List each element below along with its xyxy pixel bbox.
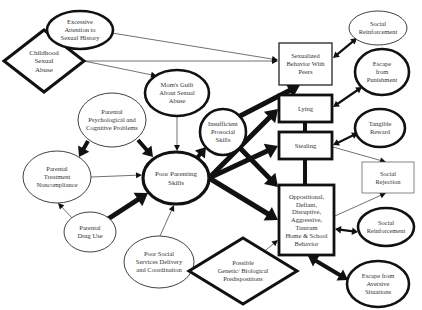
edge-childhood-sexual-abuse-to-moms-guilt <box>84 61 157 78</box>
edge-line <box>61 207 72 218</box>
arrowhead-icon <box>136 172 142 178</box>
node-label-line: Sexualized <box>291 52 320 59</box>
edge-parental-drug-to-poor-parenting <box>108 193 148 219</box>
edge-line <box>91 175 137 177</box>
node-label-line: Insufficient <box>208 120 238 127</box>
functional-model-diagram: ChildhoodSexualAbuseExcessiveAttention t… <box>0 0 422 310</box>
node-social-reinforcement-1: SocialReinforcement <box>349 11 407 45</box>
node-label-line: Parental <box>46 165 67 172</box>
node-label-line: Prosocial <box>211 128 235 135</box>
edge-parental-psych-to-poor-parenting <box>138 140 153 157</box>
node-label-line: Sexual History <box>61 34 101 41</box>
edge-sexualized-behavior-to-social-reinforcement-1 <box>333 38 357 58</box>
edge-lying-to-escape-punishment <box>333 87 362 107</box>
node-label-line: Cognitive Problems <box>86 124 138 131</box>
edge-moms-guilt-to-poor-parenting <box>174 116 180 151</box>
node-label-line: Reinforcement <box>359 28 398 35</box>
node-label-line: Services Delivery <box>136 258 183 265</box>
node-poor-parenting: Poor ParentingSkills <box>143 152 209 204</box>
edge-line <box>209 178 270 215</box>
node-label-line: Tantrum <box>296 224 318 231</box>
node-label-line: Excessive <box>67 18 93 25</box>
node-social-rejection: SocialRejection <box>362 162 414 193</box>
edge-line <box>138 140 148 151</box>
arrowhead-icon <box>335 226 341 234</box>
edge-childhood-sexual-abuse-to-sexualized-behavior <box>84 58 278 64</box>
node-label-line: Poor Social <box>144 250 174 257</box>
node-label-line: and Coordination <box>136 266 182 273</box>
node-tangible-reward: TangibleReward <box>355 109 405 147</box>
edge-line <box>337 135 353 143</box>
node-parental-psych: ParentalPsychological andCognitive Probl… <box>78 93 146 147</box>
edge-poor-social-services-to-poor-parenting <box>160 205 174 236</box>
edge-line <box>337 90 358 105</box>
node-oppositional: Oppositional,Defiant,Disruptive,Aggressi… <box>279 185 334 255</box>
node-parental-drug: ParentalDrug Use <box>64 212 116 252</box>
node-label-line: Skills <box>216 136 231 143</box>
edge-line <box>315 260 342 276</box>
node-stealing: Stealing <box>279 132 332 159</box>
node-parental-treatment: ParentalTreatmentNoncompliance <box>23 151 91 203</box>
node-insufficient-prosocial: InsufficientProsocialSkills <box>200 109 246 155</box>
node-label-line: Skills <box>168 179 184 187</box>
node-label-line: Noncompliance <box>36 181 77 188</box>
node-label-line: Poor Parenting <box>155 170 197 178</box>
edge-line <box>340 230 353 232</box>
node-lying: Lying <box>279 95 332 122</box>
node-label-line: Defiant, <box>296 201 317 208</box>
node-label-line: Drug Use <box>77 232 102 239</box>
edge-parental-drug-to-parental-treatment <box>58 203 72 218</box>
edge-excessive-attention-to-sexualized-behavior <box>112 33 278 62</box>
node-sexualized-behavior: SexualizedBehavior WithPeers <box>279 43 332 85</box>
node-label-line: Social <box>380 170 396 177</box>
node-label-line: Reinforcement <box>367 227 406 234</box>
node-label-line: Escape from <box>362 272 395 279</box>
node-label-line: Treatment <box>44 173 71 180</box>
node-escape-aversive: Escape fromAversiveSituations <box>347 261 409 307</box>
node-label-line: Abuse <box>35 66 53 74</box>
node-label-line: About Sexual <box>159 89 195 96</box>
node-label-line: from <box>376 68 389 75</box>
node-label-line: Lying <box>298 105 314 112</box>
node-label-line: Parental <box>79 224 100 231</box>
edge-oppositional-to-social-reinforcement-2 <box>335 226 358 235</box>
edge-line <box>160 209 172 236</box>
node-label-line: Social <box>378 219 394 226</box>
node-label-line: Punishment <box>367 76 398 83</box>
edge-oppositional-to-escape-aversive <box>308 255 348 280</box>
node-label-line: Home & School <box>285 232 327 239</box>
node-label-line: Predispositions <box>223 275 263 282</box>
node-escape-punishment: EscapefromPunishment <box>355 49 409 95</box>
edge-line <box>84 61 152 75</box>
node-poor-social-services: Poor SocialServices Deliveryand Coordina… <box>124 236 194 288</box>
node-label-line: Stealing <box>295 142 317 149</box>
node-label-line: Mom's Guilt <box>161 81 194 88</box>
edge-stealing-to-social-rejection <box>333 147 386 163</box>
node-label-line: Escape <box>373 60 392 67</box>
edge-stealing-to-tangible-reward <box>333 132 358 145</box>
node-moms-guilt: Mom's GuiltAbout SexualAbuse <box>145 70 209 116</box>
node-label-line: Social <box>370 20 386 27</box>
node-label-line: Genetic/ Biological <box>218 267 269 274</box>
node-label-line: Rejection <box>376 178 402 185</box>
node-label-line: Aggressive, <box>291 216 322 223</box>
arrowhead-icon <box>271 240 278 246</box>
node-label-line: Disruptive, <box>292 208 321 215</box>
node-label-line: Possible <box>232 259 254 266</box>
nodes-layer: ChildhoodSexualAbuseExcessiveAttention t… <box>4 11 414 307</box>
edge-line <box>112 33 273 59</box>
edge-parental-treatment-to-poor-parenting <box>91 172 142 178</box>
node-excessive-attention: ExcessiveAttention toSexual History <box>47 11 113 49</box>
edge-parental-psych-to-parental-treatment <box>78 141 89 157</box>
node-label-line: Attention to <box>64 26 95 33</box>
node-label-line: Aversive <box>367 280 390 287</box>
node-label-line: Reward <box>370 128 391 135</box>
node-social-reinforcement-2: SocialReinforcement <box>358 208 414 246</box>
node-label-line: Childhood <box>29 49 59 57</box>
arrowhead-icon <box>174 145 180 151</box>
node-label-line: Tangible <box>369 120 392 127</box>
node-label-line: Behavior <box>295 240 320 247</box>
node-label-line: Oppositional, <box>289 193 325 200</box>
edge-line <box>108 198 140 219</box>
node-label-line: Peers <box>298 68 313 75</box>
